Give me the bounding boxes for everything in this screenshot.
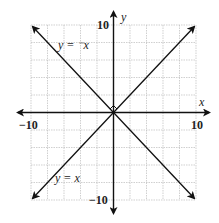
- xtick-max: 10: [191, 118, 203, 132]
- label-y-eq-x: y = x: [54, 171, 80, 185]
- ylabel: y: [120, 10, 127, 24]
- line-y-eq-x: [114, 27, 195, 113]
- xlabel: x: [198, 95, 205, 109]
- ytick-max: 10: [97, 18, 109, 32]
- label-y-eq-neg-x: y = ⁻x: [57, 38, 89, 52]
- xtick-min: −10: [19, 118, 38, 132]
- ytick-min: −10: [89, 193, 108, 207]
- coordinate-plane: 10 y x −10 10 −10 y = ⁻x y = x: [0, 0, 219, 223]
